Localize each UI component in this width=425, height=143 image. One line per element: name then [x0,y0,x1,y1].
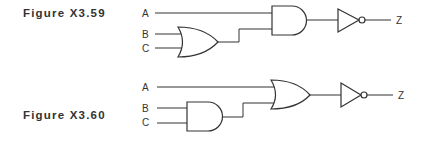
input-label-a: A [142,82,149,93]
not-gate-icon [341,83,361,107]
and-gate-icon [272,6,307,35]
inversion-bubble-icon [359,17,365,23]
or-gate-icon [271,80,310,109]
input-label-b: B [142,29,149,40]
input-label-b: B [142,103,149,114]
output-label-z: Z [398,90,404,101]
input-label-c: C [142,43,149,54]
input-label-a: A [142,8,149,19]
wire-and-to-or [222,103,276,117]
or-gate-icon [178,27,218,57]
logic-circuit-diagrams: A B C Z A B C Z [0,0,425,143]
circuit-x3-60: A B C Z [142,80,404,131]
input-label-c: C [142,117,149,128]
not-gate-icon [338,9,359,32]
and-gate-icon [187,102,223,131]
inversion-bubble-icon [361,92,367,98]
wire-or-to-and [218,29,272,42]
circuit-x3-59: A B C Z [142,6,402,57]
output-label-z: Z [396,15,402,26]
